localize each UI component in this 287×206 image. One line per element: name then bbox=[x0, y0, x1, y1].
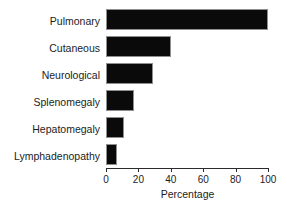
bar-pulmonary bbox=[106, 9, 268, 30]
bar-neurological bbox=[106, 63, 153, 84]
bar-row-hepatomegaly bbox=[106, 117, 268, 138]
plot-area bbox=[106, 6, 268, 168]
category-label-cutaneous: Cutaneous bbox=[0, 43, 100, 54]
bar-hepatomegaly bbox=[106, 117, 124, 138]
x-tick-60 bbox=[203, 168, 204, 172]
x-tick-80 bbox=[236, 168, 237, 172]
x-tick-label-40: 40 bbox=[156, 174, 186, 185]
x-tick-label-60: 60 bbox=[188, 174, 218, 185]
category-label-splenomegaly: Splenomegaly bbox=[0, 97, 100, 108]
bar-row-splenomegaly bbox=[106, 90, 268, 111]
x-tick-label-20: 20 bbox=[123, 174, 153, 185]
category-axis: Pulmonary Cutaneous Neurological Splenom… bbox=[0, 0, 103, 170]
category-label-lymphadenopathy: Lymphadenopathy bbox=[0, 151, 100, 162]
category-label-hepatomegaly: Hepatomegaly bbox=[0, 124, 100, 135]
bar-row-lymphadenopathy bbox=[106, 144, 268, 165]
x-tick-label-0: 0 bbox=[91, 174, 121, 185]
x-axis-title: Percentage bbox=[106, 188, 269, 200]
bar-cutaneous bbox=[106, 36, 171, 57]
bar-chart-figure: Pulmonary Cutaneous Neurological Splenom… bbox=[0, 0, 287, 206]
x-tick-40 bbox=[171, 168, 172, 172]
x-tick-20 bbox=[138, 168, 139, 172]
bar-row-cutaneous bbox=[106, 36, 268, 57]
category-label-pulmonary: Pulmonary bbox=[0, 16, 100, 27]
bar-row-neurological bbox=[106, 63, 268, 84]
category-label-neurological: Neurological bbox=[0, 70, 100, 81]
x-axis-line bbox=[106, 168, 269, 169]
bar-row-pulmonary bbox=[106, 9, 268, 30]
bar-lymphadenopathy bbox=[106, 144, 117, 165]
x-tick-0 bbox=[106, 168, 107, 172]
x-tick-label-80: 80 bbox=[221, 174, 251, 185]
bar-splenomegaly bbox=[106, 90, 134, 111]
x-tick-label-100: 100 bbox=[253, 174, 283, 185]
x-tick-100 bbox=[268, 168, 269, 172]
